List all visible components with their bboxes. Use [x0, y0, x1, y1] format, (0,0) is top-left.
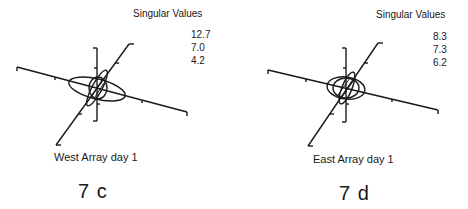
singular-value: 8.3 — [433, 30, 447, 43]
axis-y — [308, 43, 378, 146]
panel-7d: Singular Values 8.3 7.3 6.2 East Array d… — [234, 0, 468, 209]
singular-values-list: 8.3 7.3 6.2 — [433, 30, 447, 69]
panel-7c: Singular Values 12.7 7.0 4.2 West Array … — [0, 0, 234, 209]
singular-value: 6.2 — [433, 56, 447, 69]
singular-value: 4.2 — [191, 54, 210, 67]
singular-values-list: 12.7 7.0 4.2 — [191, 28, 210, 67]
figure-label: 7 d — [339, 182, 370, 205]
singular-value: 7.0 — [191, 41, 210, 54]
singular-values-title: Singular Values — [133, 8, 202, 19]
singular-value: 12.7 — [191, 28, 210, 41]
figure-label: 7 c — [78, 180, 108, 203]
panel-caption: East Array day 1 — [313, 153, 394, 165]
axis-x — [268, 70, 438, 110]
singular-value: 7.3 — [433, 43, 447, 56]
panel-caption: West Array day 1 — [54, 151, 138, 163]
singular-values-title: Singular Values — [376, 9, 445, 20]
